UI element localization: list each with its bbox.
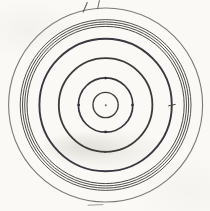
ticked-circle-south-dot (104, 131, 107, 134)
ticked-circle-west-dot (77, 104, 80, 107)
middle-circle-south-dot (104, 151, 106, 153)
center-point (105, 104, 107, 106)
scanned-paper-background (0, 0, 210, 211)
outer-top-hash-mark-2 (98, 1, 100, 9)
ticked-circle-north-dot (104, 77, 107, 80)
concentric-circles-drawing (0, 0, 210, 211)
bottom-stray-dash (88, 205, 103, 206)
ticked-circle-east-dot (131, 104, 134, 107)
heavy-circle-east-tick (169, 104, 176, 105)
